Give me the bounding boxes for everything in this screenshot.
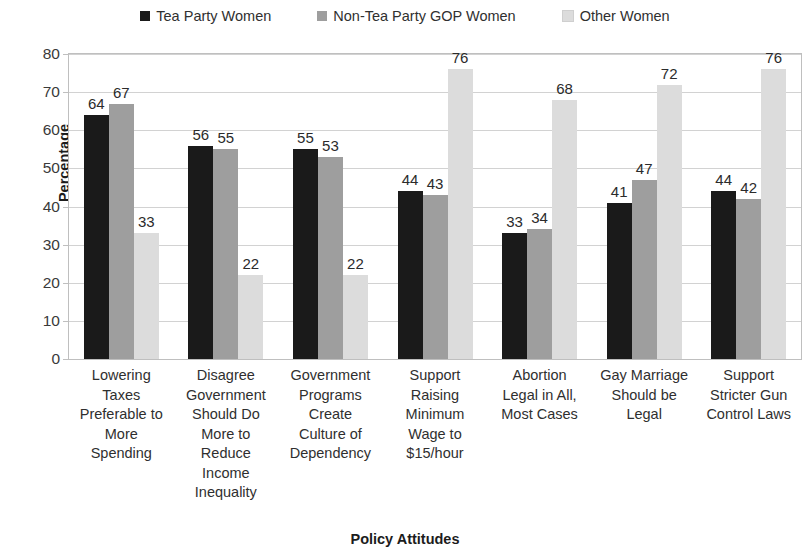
- bar-value-label: 22: [243, 255, 260, 272]
- bar-value-label: 67: [113, 84, 130, 101]
- x-axis-category-line: Minimum: [383, 405, 488, 425]
- legend-item[interactable]: Tea Party Women: [140, 8, 271, 24]
- x-axis-category-line: Stricter Gun: [696, 386, 801, 406]
- x-axis-category-line: Reduce: [174, 444, 279, 464]
- legend-label: Non-Tea Party GOP Women: [333, 8, 515, 24]
- x-axis-category-line: Wage to: [383, 425, 488, 445]
- bar[interactable]: [423, 195, 448, 359]
- x-axis-category-line: Abortion: [487, 366, 592, 386]
- x-axis-category-label: SupportRaisingMinimumWage to$15/hour: [383, 366, 488, 464]
- x-axis-category-line: Inequality: [174, 483, 279, 503]
- x-axis-category-line: Create: [278, 405, 383, 425]
- bar-value-label: 76: [765, 49, 782, 66]
- bar-value-label: 33: [138, 213, 155, 230]
- x-axis-category-label: SupportStricter GunControl Laws: [696, 366, 801, 425]
- x-axis-category-line: More to: [174, 425, 279, 445]
- y-axis-tick-label: 80: [4, 45, 60, 63]
- x-axis-category-line: Disagree: [174, 366, 279, 386]
- bar[interactable]: [318, 157, 343, 359]
- bar[interactable]: [293, 149, 318, 359]
- bar[interactable]: [343, 275, 368, 359]
- y-axis-tick-label: 0: [4, 350, 60, 368]
- x-axis-category-line: Culture of: [278, 425, 383, 445]
- legend-swatch-icon: [140, 11, 150, 21]
- x-axis-category-line: Government: [174, 386, 279, 406]
- legend-swatch-icon: [317, 11, 327, 21]
- x-axis-category-line: Support: [383, 366, 488, 386]
- x-axis-category-line: Lowering: [69, 366, 174, 386]
- x-axis-category-line: Should be: [592, 386, 697, 406]
- bar[interactable]: [134, 233, 159, 359]
- y-axis-tick-label: 40: [4, 198, 60, 216]
- bar-value-label: 76: [452, 49, 469, 66]
- x-axis-category-line: Most Cases: [487, 405, 592, 425]
- x-axis-category-line: Legal in All,: [487, 386, 592, 406]
- x-axis-category-line: Government: [278, 366, 383, 386]
- y-axis-tick-label: 10: [4, 312, 60, 330]
- x-axis-category-line: Support: [696, 366, 801, 386]
- bar-value-label: 53: [322, 137, 339, 154]
- x-axis-category-label: DisagreeGovernmentShould DoMore toReduce…: [174, 366, 279, 503]
- bar-value-label: 55: [297, 129, 314, 146]
- bar[interactable]: [607, 203, 632, 359]
- y-axis-tick-label: 20: [4, 274, 60, 292]
- y-axis-tick-label: 70: [4, 83, 60, 101]
- bar-value-label: 47: [636, 160, 653, 177]
- x-axis-category-line: Spending: [69, 444, 174, 464]
- bar-value-label: 44: [402, 171, 419, 188]
- x-axis-category-line: Taxes: [69, 386, 174, 406]
- bar-series-container: 6467335655225553224443763334684147724442…: [69, 54, 801, 359]
- bar[interactable]: [761, 69, 786, 359]
- bar[interactable]: [711, 191, 736, 359]
- bar-value-label: 64: [88, 95, 105, 112]
- legend-item[interactable]: Non-Tea Party GOP Women: [317, 8, 515, 24]
- bar[interactable]: [84, 115, 109, 359]
- bar-value-label: 22: [347, 255, 364, 272]
- x-axis-category-label: Gay MarriageShould beLegal: [592, 366, 697, 425]
- x-axis-title: Policy Attitudes: [0, 531, 810, 547]
- x-axis-category-line: Programs: [278, 386, 383, 406]
- y-axis-tick-label: 50: [4, 159, 60, 177]
- x-axis-category-label: GovernmentProgramsCreateCulture ofDepend…: [278, 366, 383, 464]
- bar[interactable]: [657, 85, 682, 360]
- x-axis-category-label: AbortionLegal in All,Most Cases: [487, 366, 592, 425]
- x-axis-category-line: Should Do: [174, 405, 279, 425]
- x-axis-category-line: Income: [174, 464, 279, 484]
- bar-value-label: 34: [531, 209, 548, 226]
- bar-value-label: 44: [715, 171, 732, 188]
- x-axis-category-line: Gay Marriage: [592, 366, 697, 386]
- legend-label: Other Women: [580, 8, 670, 24]
- legend-label: Tea Party Women: [156, 8, 271, 24]
- bar-value-label: 41: [611, 183, 628, 200]
- bar[interactable]: [736, 199, 761, 359]
- x-axis-category-label: LoweringTaxesPreferable toMoreSpending: [69, 366, 174, 464]
- bar[interactable]: [448, 69, 473, 359]
- bar-value-label: 56: [193, 126, 210, 143]
- bar-value-label: 55: [218, 129, 235, 146]
- bar[interactable]: [502, 233, 527, 359]
- bar[interactable]: [188, 146, 213, 360]
- x-axis-category-line: More: [69, 425, 174, 445]
- bar[interactable]: [552, 100, 577, 359]
- chart-legend: Tea Party WomenNon-Tea Party GOP WomenOt…: [0, 4, 810, 28]
- bar-value-label: 43: [427, 175, 444, 192]
- bar[interactable]: [527, 229, 552, 359]
- bar[interactable]: [213, 149, 238, 359]
- y-axis-tick-label: 60: [4, 121, 60, 139]
- bar[interactable]: [632, 180, 657, 359]
- y-axis-tick-label: 30: [4, 236, 60, 254]
- legend-item[interactable]: Other Women: [562, 8, 670, 24]
- bar-value-label: 42: [740, 179, 757, 196]
- bar[interactable]: [109, 104, 134, 359]
- bar-value-label: 33: [506, 213, 523, 230]
- x-axis-category-line: Dependency: [278, 444, 383, 464]
- x-axis-category-labels: LoweringTaxesPreferable toMoreSpendingDi…: [69, 366, 801, 526]
- bar[interactable]: [238, 275, 263, 359]
- legend-swatch-icon: [562, 10, 574, 22]
- x-axis-category-line: Raising: [383, 386, 488, 406]
- bar-value-label: 68: [556, 80, 573, 97]
- x-axis-category-line: Preferable to: [69, 405, 174, 425]
- bar-value-label: 72: [661, 65, 678, 82]
- x-axis-category-line: Control Laws: [696, 405, 801, 425]
- bar[interactable]: [398, 191, 423, 359]
